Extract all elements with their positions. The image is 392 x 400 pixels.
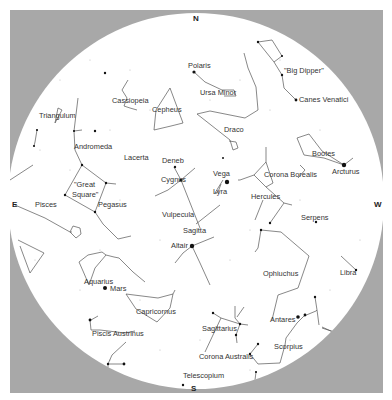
label-polaris: Polaris bbox=[188, 61, 211, 70]
label-ophiuchus: Ophiuchus bbox=[263, 269, 299, 278]
label-antares: Antares bbox=[270, 315, 296, 324]
label-sagitta: Sagitta bbox=[183, 226, 207, 235]
label-piscis-austrinus: Piscis Austrinus bbox=[92, 329, 144, 338]
label-corona-borealis: Corona Borealis bbox=[264, 170, 317, 179]
label-scorpius: Scorpius bbox=[274, 342, 303, 351]
label-cepheus: Cepheus bbox=[152, 105, 182, 114]
label-altair: Altair bbox=[171, 241, 188, 250]
label-draco: Draco bbox=[224, 125, 244, 134]
label-great-square-2: Square" bbox=[72, 190, 99, 199]
label-hercules: Hercules bbox=[251, 192, 280, 201]
sky-map: N S E W Polaris "Big Dipper" Ursa Minor … bbox=[0, 0, 392, 400]
south-label: S bbox=[191, 384, 197, 393]
label-capricornus: Capricornus bbox=[136, 307, 176, 316]
label-arcturus: Arcturus bbox=[332, 167, 360, 176]
label-vega: Vega bbox=[213, 169, 231, 178]
label-ursa-minor: Ursa Minor bbox=[200, 88, 237, 97]
label-lacerta: Lacerta bbox=[124, 153, 150, 162]
label-andromeda: Andromeda bbox=[74, 142, 113, 151]
label-mars: Mars bbox=[110, 284, 127, 293]
label-deneb: Deneb bbox=[162, 156, 184, 165]
label-cassiopeia: Cassiopeia bbox=[112, 96, 149, 105]
label-great-square-1: "Great bbox=[74, 180, 95, 189]
label-serpens: Serpens bbox=[301, 213, 329, 222]
label-pegasus: Pegasus bbox=[98, 200, 127, 209]
label-corona-australis: Corona Australis bbox=[199, 352, 254, 361]
label-big-dipper: "Big Dipper" bbox=[284, 66, 324, 75]
label-vulpecula: Vulpecula bbox=[162, 210, 195, 219]
label-lyra: Lyra bbox=[213, 187, 228, 196]
label-cygnus: Cygnus bbox=[161, 175, 186, 184]
label-canes-venatici: Canes Venatici bbox=[299, 95, 349, 104]
north-label: N bbox=[193, 14, 199, 23]
west-label: W bbox=[374, 200, 382, 209]
label-sagittarius: Sagittarius bbox=[202, 324, 237, 333]
label-libra: Libra bbox=[340, 268, 357, 277]
east-label: E bbox=[12, 200, 18, 209]
label-telescopium: Telescopium bbox=[183, 371, 224, 380]
label-triangulum: Triangulum bbox=[39, 111, 76, 120]
label-bootes: Bootes bbox=[312, 149, 335, 158]
label-pisces: Pisces bbox=[35, 200, 57, 209]
